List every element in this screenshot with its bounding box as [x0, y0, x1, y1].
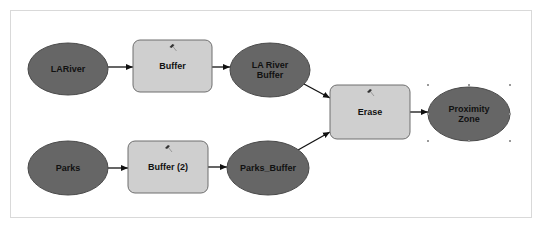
node-erase[interactable]: Erase	[330, 85, 410, 139]
node-label: Proximity	[448, 104, 489, 114]
node-proximity_zone[interactable]: ProximityZone	[428, 87, 510, 141]
node-label: Parks	[56, 163, 81, 173]
node-parks_buffer[interactable]: Parks_Buffer	[227, 141, 309, 195]
node-label: Buffer	[159, 61, 186, 71]
node-label: LA River	[252, 60, 289, 70]
model-builder-canvas[interactable]: LARiverBufferLA RiverBufferEraseProximit…	[0, 0, 540, 226]
model-nodes: LARiverBufferLA RiverBufferEraseProximit…	[28, 40, 510, 195]
selection-handle[interactable]	[468, 140, 470, 142]
node-label: Erase	[358, 107, 383, 117]
selection-handle[interactable]	[427, 113, 429, 115]
node-buffer2[interactable]: Buffer (2)	[128, 141, 208, 193]
node-label: Parks_Buffer	[240, 163, 297, 173]
node-label: Buffer (2)	[148, 162, 188, 172]
node-lariver[interactable]: LARiver	[28, 43, 108, 95]
selection-handle[interactable]	[509, 140, 511, 142]
connector-parks_buffer-to-erase[interactable]	[298, 132, 330, 150]
selection-handle[interactable]	[509, 84, 511, 86]
node-label: Buffer	[257, 70, 284, 80]
connector-lariver_buffer-to-erase[interactable]	[304, 84, 330, 98]
node-label: LARiver	[51, 64, 86, 74]
selection-handle[interactable]	[427, 140, 429, 142]
node-parks[interactable]: Parks	[28, 141, 108, 195]
selection-handle[interactable]	[427, 84, 429, 86]
node-lariver_buffer[interactable]: LA RiverBuffer	[230, 43, 310, 97]
selection-handle[interactable]	[509, 113, 511, 115]
node-label: Zone	[458, 114, 480, 124]
node-buffer[interactable]: Buffer	[133, 40, 212, 92]
selection-handle[interactable]	[468, 84, 470, 86]
